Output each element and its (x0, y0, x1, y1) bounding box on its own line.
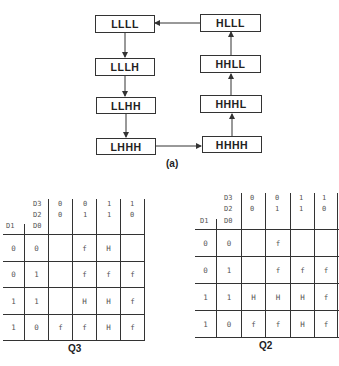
row-header-d1: 0 (195, 257, 216, 283)
row-header-d1: 1 (195, 311, 216, 337)
kmap-cell (315, 230, 337, 256)
row-header-d0: 1 (217, 284, 241, 310)
kmap-title-q2: Q2 (259, 340, 272, 351)
kmap-cell: f (291, 257, 314, 283)
kmap-cell: f (315, 311, 337, 337)
col-header-d2: 0 (322, 205, 326, 213)
col-var-bottom-label: D2 (224, 205, 232, 213)
kmap-cell (291, 230, 314, 256)
col-header-d3: 0 (250, 194, 254, 202)
kmap-cell: H (266, 284, 290, 310)
row-header-d0: 1 (217, 257, 241, 283)
row-var-right-label: D0 (224, 217, 232, 225)
row-header-d0: 0 (217, 230, 241, 256)
col-header-d3: 0 (275, 194, 279, 202)
kmap-cell: f (266, 311, 290, 337)
kmap-cell: H (242, 284, 265, 310)
row-var-left-label: D1 (200, 217, 208, 225)
row-header-d1: 0 (195, 230, 216, 256)
col-header-d2: 0 (250, 205, 254, 213)
kmap-cell: f (266, 230, 290, 256)
kmap-cell: H (291, 311, 314, 337)
col-header-d2: 1 (275, 205, 279, 213)
kmap-cell (242, 230, 265, 256)
kmap-cell: f (266, 257, 290, 283)
col-header-d3: 1 (299, 194, 303, 202)
row-header-d1: 1 (195, 284, 216, 310)
grid-line (337, 193, 338, 338)
kmap-cell: f (242, 311, 265, 337)
kmap-cell (242, 257, 265, 283)
row-header-d0: 0 (217, 311, 241, 337)
col-header-d3: 1 (322, 194, 326, 202)
kmap-cell: f (315, 257, 337, 283)
col-header-d2: 1 (299, 205, 303, 213)
kmap-q2: D3 D2 D1 D0 0 0 0 1 1 1 1 0 0 0 f 0 1 f … (0, 0, 339, 366)
kmap-cell: f (315, 284, 337, 310)
kmap-cell: H (291, 284, 314, 310)
col-var-top-label: D3 (224, 194, 232, 202)
